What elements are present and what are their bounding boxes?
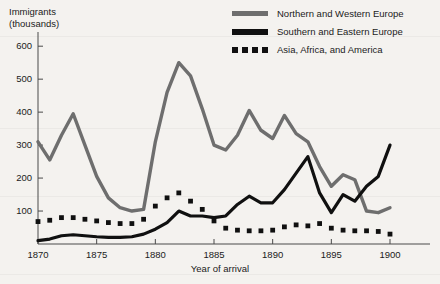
series-0-line [38, 63, 390, 213]
immigration-line-chart: Immigrants(thousands) Year of arrival No… [0, 0, 440, 284]
x-tick-label: 1895 [311, 249, 351, 260]
plot-area [0, 0, 440, 284]
y-tick-label: 100 [6, 205, 32, 216]
y-tick-label: 400 [6, 106, 32, 117]
x-tick-label: 1875 [77, 249, 117, 260]
x-tick-label: 1880 [135, 249, 175, 260]
y-tick-label: 200 [6, 172, 32, 183]
x-tick-label: 1900 [370, 249, 410, 260]
series-lines [36, 63, 393, 241]
x-tick-label: 1870 [18, 249, 58, 260]
x-tick-label: 1890 [253, 249, 293, 260]
y-tick-label: 600 [6, 40, 32, 51]
y-tick-label: 500 [6, 73, 32, 84]
x-tick-label: 1885 [194, 249, 234, 260]
series-2-dots [36, 191, 393, 237]
y-tick-label: 300 [6, 139, 32, 150]
